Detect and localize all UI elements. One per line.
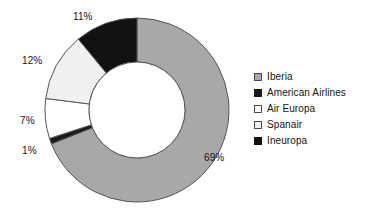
legend-item-spanair[interactable]: Spanair (254, 117, 368, 132)
legend-item-iberia[interactable]: Iberia (254, 69, 368, 84)
legend-swatch-icon (254, 105, 262, 113)
legend-item-label: Ineuropa (267, 135, 307, 146)
legend-swatch-icon (254, 137, 262, 145)
legend: Iberia American Airlines Air Europa Span… (254, 69, 368, 149)
legend-item-label: American Airlines (267, 87, 346, 98)
donut-chart-figure: 11%12%7%1%69% Iberia American Airlines A… (0, 0, 370, 211)
legend-item-label: Iberia (267, 71, 293, 82)
slice-value-label: 12% (22, 55, 42, 66)
slice-value-label: 7% (20, 115, 35, 126)
slice-value-label: 1% (22, 145, 37, 156)
legend-item-air-europa[interactable]: Air Europa (254, 101, 368, 116)
legend-item-ineuropa[interactable]: Ineuropa (254, 133, 368, 148)
donut-svg (0, 0, 250, 211)
slice-value-label: 69% (204, 152, 224, 163)
legend-swatch-icon (254, 121, 262, 129)
legend-item-american-airlines[interactable]: American Airlines (254, 85, 368, 100)
legend-item-label: Air Europa (267, 103, 315, 114)
legend-swatch-icon (254, 89, 262, 97)
legend-item-label: Spanair (267, 119, 302, 130)
slice-value-label: 11% (73, 11, 93, 22)
donut-plot-area: 11%12%7%1%69% (0, 0, 250, 211)
legend-swatch-icon (254, 73, 262, 81)
donut-center-hole (89, 62, 185, 158)
